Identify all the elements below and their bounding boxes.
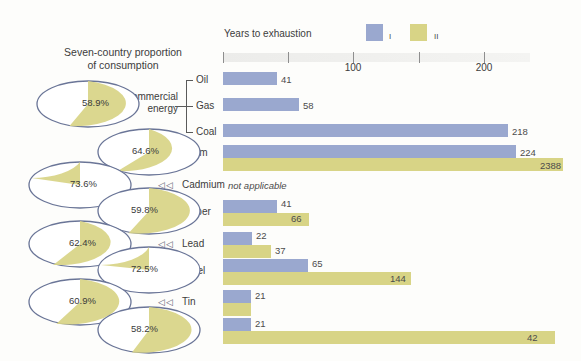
bracket-arm-stem bbox=[175, 106, 184, 107]
chart-canvas: Seven-country proportion of consumption … bbox=[0, 0, 581, 361]
pie-value-zinc: 58.2% bbox=[131, 323, 158, 334]
pie-value-commercial-energy: 58.9% bbox=[82, 97, 109, 108]
left-panel-title-line2: of consumption bbox=[36, 59, 210, 72]
bar-oil-series-1 bbox=[223, 72, 277, 85]
axis-tick-150 bbox=[419, 52, 420, 63]
pie-value-aluminium: 64.6% bbox=[132, 145, 159, 156]
legend-swatch-series-2 bbox=[410, 24, 427, 41]
bar-lead-series-2 bbox=[223, 245, 271, 258]
axis-label-200: 200 bbox=[476, 62, 493, 73]
bar-value-aluminium-series-2: 2388 bbox=[540, 160, 561, 171]
axis-tick-0 bbox=[223, 52, 224, 63]
axis-label-100: 100 bbox=[345, 62, 362, 73]
bar-value-lead-series-1: 22 bbox=[256, 230, 267, 241]
bar-tin-series-1 bbox=[223, 290, 251, 303]
bar-zinc-series-1 bbox=[223, 318, 251, 331]
bar-gas-series-1 bbox=[223, 98, 299, 111]
pie-value-copper: 59.8% bbox=[131, 204, 158, 215]
bar-aluminium-series-2 bbox=[223, 158, 563, 171]
pie-value-tin: 60.9% bbox=[69, 295, 96, 306]
category-label-oil: Oil bbox=[196, 74, 208, 85]
pie-value-nickel: 72.5% bbox=[131, 263, 158, 274]
bar-zinc-series-2 bbox=[223, 331, 555, 344]
bar-value-coal-series-1: 218 bbox=[512, 126, 528, 137]
pie-value-lead: 62.4% bbox=[69, 237, 96, 248]
bar-nickel-series-2 bbox=[223, 272, 411, 285]
axis-tick-50 bbox=[288, 52, 289, 63]
axis-title: Years to exhaustion bbox=[224, 28, 311, 39]
bar-nickel-series-1 bbox=[223, 259, 308, 272]
bracket-arm-oil bbox=[186, 80, 193, 81]
note-not-applicable: not applicable bbox=[228, 180, 287, 191]
legend-label-series-2: II bbox=[434, 32, 438, 41]
bar-copper-series-1 bbox=[223, 200, 277, 213]
bar-value-lead-series-2: 37 bbox=[275, 245, 286, 256]
bar-value-tin-series-1: 21 bbox=[255, 290, 266, 301]
bar-value-nickel-series-1: 65 bbox=[312, 258, 323, 269]
legend-label-series-1: I bbox=[389, 32, 391, 41]
bar-value-copper-series-2: 66 bbox=[291, 213, 302, 224]
left-panel-title-line1: Seven-country proportion bbox=[36, 46, 210, 59]
bar-value-gas-series-1: 58 bbox=[303, 100, 314, 111]
bar-aluminium-series-1 bbox=[223, 145, 516, 158]
legend-swatch-series-1 bbox=[366, 24, 383, 41]
bar-value-aluminium-series-1: 224 bbox=[520, 147, 536, 158]
bar-value-copper-series-1: 41 bbox=[281, 198, 292, 209]
bar-coal-series-1 bbox=[223, 124, 508, 137]
bar-value-zinc-series-2: 42 bbox=[527, 332, 538, 343]
left-panel-title: Seven-country proportion of consumption bbox=[36, 46, 210, 72]
bar-value-oil-series-1: 41 bbox=[281, 74, 292, 85]
bar-value-zinc-series-1: 21 bbox=[255, 318, 266, 329]
bar-lead-series-1 bbox=[223, 232, 252, 245]
bar-tin-series-2 bbox=[223, 303, 251, 316]
pie-value-cadmium: 73.6% bbox=[70, 178, 97, 189]
bar-value-nickel-series-2: 144 bbox=[390, 273, 406, 284]
category-label-gas: Gas bbox=[196, 100, 214, 111]
